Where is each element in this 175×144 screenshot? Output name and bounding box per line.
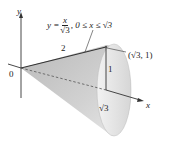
x-axis-arrow xyxy=(137,98,144,102)
slant-length-label: 2 xyxy=(61,44,66,53)
point-label: (√3, 1) xyxy=(128,51,152,60)
formula-domain: , 0 ≤ x ≤ √3 xyxy=(71,20,112,30)
formula-denominator: √3 xyxy=(60,26,69,35)
y-axis-label: y xyxy=(17,7,21,16)
point-marker xyxy=(105,46,107,48)
origin-label: 0 xyxy=(9,70,14,79)
base-length-label: √3 xyxy=(99,104,108,113)
formula: y =x√3, 0 ≤ x ≤ √3 xyxy=(47,16,112,35)
x-axis-left xyxy=(8,64,21,68)
formula-lhs: y = xyxy=(47,20,59,30)
cone-base-ellipse xyxy=(97,44,131,136)
formula-fraction: x√3 xyxy=(60,16,69,35)
x-axis-label: x xyxy=(146,101,150,110)
height-label: 1 xyxy=(108,65,113,74)
